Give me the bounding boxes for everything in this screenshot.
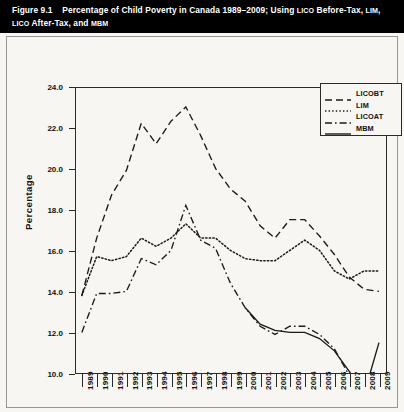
x-tick-mark [246, 374, 247, 387]
y-tick-label: 10.0 [29, 370, 63, 379]
x-tick-mark [157, 374, 158, 387]
y-tick-mark [69, 374, 75, 375]
legend-swatch-icon [325, 113, 351, 121]
figure-title-bar: Figure 9.1 Percentage of Child Poverty i… [0, 0, 404, 33]
x-tick-mark [335, 374, 336, 387]
x-tick-mark [320, 374, 321, 387]
x-tick-mark [97, 374, 98, 387]
x-tick-label: 2003 [294, 371, 303, 390]
legend-label: MBM [356, 124, 374, 133]
x-tick-label: 1994 [160, 371, 169, 390]
x-tick-mark [276, 374, 277, 387]
legend-swatch-icon [325, 90, 351, 98]
page-title: Figure 9.1 Percentage of Child Poverty i… [12, 4, 394, 30]
x-tick-label: 2007 [353, 371, 362, 390]
chart-legend: LICOBTLIMLICOATMBM [320, 83, 402, 136]
legend-label: LICOAT [356, 112, 383, 121]
x-tick-mark [201, 374, 202, 387]
x-tick-label: 1995 [175, 371, 184, 390]
y-tick-label: 12.0 [29, 329, 63, 338]
figure-body: Percentage 10.012.014.016.018.020.022.02… [6, 36, 398, 408]
legend-swatch-icon [325, 124, 351, 132]
x-tick-label: 2004 [309, 371, 318, 390]
x-tick-mark [172, 374, 173, 387]
x-tick-label: 2008 [368, 371, 377, 390]
x-tick-mark [216, 374, 217, 387]
figure-root: Figure 9.1 Percentage of Child Poverty i… [0, 0, 404, 412]
y-tick-label: 24.0 [29, 83, 63, 92]
x-tick-label: 1998 [220, 371, 229, 390]
x-tick-label: 2006 [339, 371, 348, 390]
x-tick-mark [142, 374, 143, 387]
x-tick-mark [365, 374, 366, 387]
x-tick-mark [350, 374, 351, 387]
series-line-licoat [82, 205, 379, 373]
series-line-lim [82, 224, 379, 296]
legend-label: LIM [356, 101, 369, 110]
legend-swatch-icon [325, 101, 351, 109]
y-axis-title: Percentage [23, 174, 34, 230]
x-tick-label: 2002 [279, 371, 288, 390]
x-tick-label: 1989 [86, 371, 95, 390]
x-tick-label: 1997 [205, 371, 214, 390]
x-tick-label: 2009 [383, 371, 392, 390]
x-tick-label: 2005 [324, 371, 333, 390]
x-tick-mark [261, 374, 262, 387]
series-line-mbm [245, 308, 379, 373]
x-tick-mark [127, 374, 128, 387]
legend-label: LICOBT [356, 89, 384, 98]
figure-number: Figure 9.1 [12, 5, 53, 15]
x-tick-mark [305, 374, 306, 387]
x-tick-label: 2001 [264, 371, 273, 390]
x-tick-mark [231, 374, 232, 387]
x-tick-mark [290, 374, 291, 387]
x-tick-label: 1993 [145, 371, 154, 390]
x-tick-label: 1991 [116, 371, 125, 390]
y-tick-label: 20.0 [29, 165, 63, 174]
x-tick-mark [82, 374, 83, 387]
legend-item-mbm: MBM [325, 123, 401, 135]
x-tick-mark [380, 374, 381, 387]
x-tick-label: 1990 [101, 371, 110, 390]
legend-item-licoat: LICOAT [325, 111, 401, 123]
y-tick-label: 16.0 [29, 247, 63, 256]
y-tick-label: 22.0 [29, 124, 63, 133]
legend-item-lim: LIM [325, 100, 401, 112]
x-tick-label: 1996 [190, 371, 199, 390]
y-tick-label: 14.0 [29, 288, 63, 297]
x-tick-label: 2000 [249, 371, 258, 390]
y-tick-label: 18.0 [29, 206, 63, 215]
x-tick-mark [186, 374, 187, 387]
legend-item-licobt: LICOBT [325, 88, 401, 100]
x-tick-label: 1992 [131, 371, 140, 390]
x-tick-label: 1999 [235, 371, 244, 390]
x-tick-mark [112, 374, 113, 387]
